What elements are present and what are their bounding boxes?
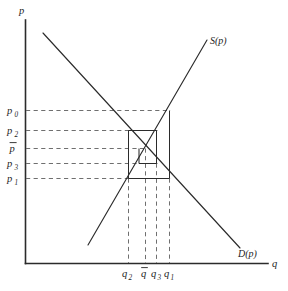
price-tick-labels: p 0 p 2 p p 3 p 1 — [6, 105, 19, 187]
svg-text:p: p — [6, 105, 12, 116]
tick-label-p1: p 1 — [6, 173, 18, 187]
tick-label-pbar: p — [9, 143, 17, 154]
price-guide-lines — [26, 111, 171, 179]
svg-text:p: p — [6, 158, 12, 169]
supply-curve-label: S(p) — [210, 35, 227, 47]
svg-text:q: q — [141, 268, 146, 279]
svg-text:1: 1 — [15, 179, 19, 187]
diagram-canvas: p q — [0, 0, 288, 291]
supply-curve — [88, 40, 207, 245]
svg-text:p: p — [6, 173, 12, 184]
svg-text:0: 0 — [15, 111, 19, 119]
price-axis-label: p — [18, 5, 24, 16]
svg-text:2: 2 — [15, 131, 19, 139]
tick-label-q1: q 1 — [164, 268, 174, 282]
curves-group — [43, 33, 240, 248]
tick-label-q3: q 3 — [151, 268, 161, 282]
svg-text:q: q — [122, 268, 127, 279]
quantity-axis-label: q — [272, 258, 277, 269]
tick-label-qbar: q — [141, 268, 148, 279]
cobweb-diagram: p q — [0, 0, 288, 291]
svg-text:3: 3 — [14, 164, 19, 172]
svg-text:p: p — [9, 143, 15, 154]
demand-curve — [43, 33, 240, 248]
svg-text:q: q — [151, 268, 156, 279]
cobweb-path-group — [129, 111, 170, 179]
tick-label-p0: p 0 — [6, 105, 19, 119]
svg-text:2: 2 — [128, 274, 132, 282]
svg-text:q: q — [164, 268, 169, 279]
axes-group — [26, 20, 269, 264]
tick-label-q2: q 2 — [122, 268, 132, 282]
tick-label-p2: p 2 — [6, 125, 19, 139]
svg-text:3: 3 — [156, 274, 161, 282]
demand-curve-label: D(p) — [237, 248, 258, 260]
tick-label-p3: p 3 — [6, 158, 19, 172]
svg-text:1: 1 — [170, 274, 174, 282]
svg-text:p: p — [6, 125, 12, 136]
quantity-tick-labels: q 2 q q 3 q 1 — [122, 268, 174, 282]
